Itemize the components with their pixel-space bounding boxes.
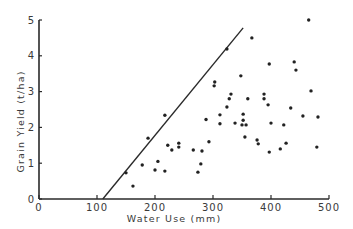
y-tick-label: 1 [28,158,35,169]
y-tick-label: 0 [28,194,35,205]
scatter-chart: 0100200300400500 012345 Water Use (mm) G… [0,0,353,229]
x-tick-label: 400 [260,202,282,213]
data-point [262,97,265,100]
x-tick-label: 0 [35,202,42,213]
data-point [177,145,180,148]
data-point [240,123,243,126]
data-point [196,170,199,173]
data-point [269,121,272,124]
data-point [212,84,215,87]
data-point [124,171,127,174]
data-point [141,163,144,166]
data-point [146,136,149,139]
data-point [192,148,195,151]
data-point [218,113,221,116]
data-point [153,168,156,171]
data-point [307,18,310,21]
data-point [268,150,271,153]
data-point [315,145,318,148]
data-point [257,142,260,145]
data-point [279,147,282,150]
data-point [244,123,247,126]
data-point [218,122,221,125]
data-point [163,169,166,172]
x-axis-title: Water Use (mm) [127,213,222,224]
data-point [228,97,231,100]
data-point [293,60,296,63]
data-point [284,141,287,144]
data-point [289,106,292,109]
data-point [316,115,319,118]
data-point [282,123,285,126]
data-point [207,140,210,143]
x-tick-label: 500 [318,202,340,213]
y-ticks: 012345 [28,15,42,205]
x-tick-label: 300 [202,202,224,213]
data-point [239,74,242,77]
data-point [246,97,249,100]
axes [39,20,329,199]
data-point [225,47,228,50]
y-tick-label: 3 [28,86,35,97]
data-point [200,149,203,152]
data-point [241,119,244,122]
data-point [163,114,166,117]
data-points [124,18,319,188]
y-axis-title: Grain Yield (t/ha) [15,70,26,172]
x-ticks: 0100200300400500 [35,195,340,213]
data-point [268,62,271,65]
data-point [250,36,253,39]
data-point [199,162,202,165]
data-point [204,118,207,121]
data-point [243,135,246,138]
data-point [166,144,169,147]
x-tick-label: 200 [144,202,166,213]
data-point [156,160,159,163]
y-tick-label: 4 [28,50,35,61]
data-point [255,138,258,141]
data-point [301,114,304,117]
boundary-line [103,28,243,199]
data-point [131,184,134,187]
x-tick-label: 100 [86,202,108,213]
data-point [241,112,244,115]
y-tick-label: 5 [28,15,35,26]
data-point [225,105,228,108]
y-tick-label: 2 [28,122,35,133]
data-point [213,80,216,83]
data-point [170,148,173,151]
data-point [229,92,232,95]
data-point [266,103,269,106]
data-point [177,141,180,144]
data-point [294,68,297,71]
data-point [233,121,236,124]
data-point [309,89,312,92]
data-point [262,92,265,95]
